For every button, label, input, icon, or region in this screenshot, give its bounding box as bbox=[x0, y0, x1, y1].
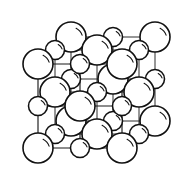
large-ion-sphere bbox=[23, 49, 53, 79]
atom-outline bbox=[71, 139, 90, 158]
atom-outline bbox=[107, 49, 137, 79]
atom-outline bbox=[29, 97, 48, 116]
small-ion-sphere bbox=[71, 55, 90, 74]
small-ion-sphere bbox=[113, 97, 132, 116]
atom-outline bbox=[113, 97, 132, 116]
small-ion-sphere bbox=[29, 97, 48, 116]
large-ion-sphere bbox=[65, 91, 95, 121]
lattice-diagram-svg bbox=[0, 0, 185, 185]
small-ion-sphere bbox=[71, 139, 90, 158]
large-ion-sphere bbox=[107, 49, 137, 79]
atom-outline bbox=[23, 133, 53, 163]
atom-outline bbox=[23, 49, 53, 79]
atom-outline bbox=[107, 133, 137, 163]
atom-outline bbox=[71, 55, 90, 74]
crystal-lattice-figure bbox=[0, 0, 185, 185]
large-ion-sphere bbox=[107, 133, 137, 163]
large-ion-sphere bbox=[23, 133, 53, 163]
atom-outline bbox=[65, 91, 95, 121]
